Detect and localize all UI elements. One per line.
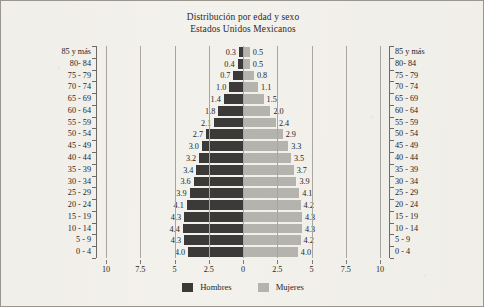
bar-hombres: [229, 82, 243, 92]
age-tick: [92, 140, 96, 141]
value-label-hombres: 3.0: [189, 142, 199, 151]
x-tick-mark: [380, 260, 381, 264]
age-label-right: 50 - 54: [389, 128, 463, 140]
x-tick-mark: [209, 260, 210, 264]
value-label-mujeres: 3.3: [291, 142, 301, 151]
x-tick-label: 7.5: [135, 265, 145, 274]
plot-area: 0.30.50.40.50.70.81.01.11.41.51.82.02.12…: [106, 46, 380, 258]
age-tick: [92, 211, 96, 212]
x-tick-mark: [277, 260, 278, 264]
age-label-right: 45 - 49: [389, 140, 463, 152]
bar-hombres: [224, 94, 243, 104]
age-tick: [92, 199, 96, 200]
bar-mujeres: [243, 59, 250, 69]
age-label-right: 20 - 24: [389, 199, 463, 211]
gridline: [380, 46, 381, 258]
x-tick-label: 5: [309, 265, 313, 274]
age-label-right: 55 - 59: [389, 117, 463, 129]
age-tick: [390, 70, 394, 71]
age-tick: [390, 93, 394, 94]
age-label-left: 45 - 49: [23, 140, 97, 152]
bar-mujeres: [243, 141, 288, 151]
value-label-hombres: 4.3: [171, 236, 181, 245]
value-label-mujeres: 4.3: [305, 224, 315, 233]
age-axis-left: 85 y más80- 8475 - 7970 - 7465 - 6960 - …: [23, 46, 97, 258]
bar-hombres: [190, 188, 243, 198]
x-tick-mark: [175, 260, 176, 264]
value-label-mujeres: 1.5: [267, 94, 277, 103]
value-label-mujeres: 2.0: [273, 106, 283, 115]
value-label-hombres: 0.7: [220, 71, 230, 80]
age-label-left: 15 - 19: [23, 211, 97, 223]
gridline: [209, 46, 210, 258]
value-label-hombres: 3.6: [180, 177, 190, 186]
legend-item: Hombres: [182, 282, 232, 292]
bar-hombres: [194, 177, 243, 187]
age-tick: [390, 164, 394, 165]
gridline: [277, 46, 278, 258]
bar-mujeres: [243, 165, 294, 175]
value-label-mujeres: 2.4: [279, 118, 289, 127]
bar-hombres: [214, 118, 243, 128]
value-label-hombres: 3.4: [183, 165, 193, 174]
bar-mujeres: [243, 82, 258, 92]
value-label-mujeres: 3.9: [299, 177, 309, 186]
x-tick-label: 5: [172, 265, 176, 274]
age-tick: [390, 223, 394, 224]
age-tick: [92, 187, 96, 188]
value-label-mujeres: 3.5: [294, 153, 304, 162]
value-label-hombres: 1.0: [216, 83, 226, 92]
legend-label: Hombres: [200, 282, 232, 292]
chart-subtitle: Estados Unidos Mexicanos: [1, 23, 484, 35]
bar-hombres: [184, 235, 243, 245]
age-label-right: 70 - 74: [389, 81, 463, 93]
bar-mujeres: [243, 106, 270, 116]
age-label-right: 35 - 39: [389, 164, 463, 176]
age-tick: [390, 81, 394, 82]
x-tick-mark: [312, 260, 313, 264]
age-tick: [92, 70, 96, 71]
value-label-mujeres: 0.5: [253, 47, 263, 56]
age-label-left: 35 - 39: [23, 164, 97, 176]
bar-hombres: [184, 212, 243, 222]
bar-hombres: [188, 247, 243, 257]
bar-mujeres: [243, 177, 296, 187]
bar-mujeres: [243, 200, 301, 210]
value-label-mujeres: 0.5: [253, 59, 263, 68]
age-label-left: 0 - 4: [23, 246, 97, 258]
bar-mujeres: [243, 235, 301, 245]
bar-hombres: [183, 224, 243, 234]
age-label-left: 65 - 69: [23, 93, 97, 105]
x-tick-mark: [140, 260, 141, 264]
age-tick: [390, 152, 394, 153]
bar-mujeres: [243, 188, 299, 198]
value-label-hombres: 1.8: [205, 106, 215, 115]
bar-mujeres: [243, 47, 250, 57]
age-tick: [390, 258, 394, 259]
age-tick: [92, 117, 96, 118]
age-tick: [92, 152, 96, 153]
age-tick: [92, 58, 96, 59]
age-tick: [92, 46, 96, 47]
age-label-left: 60 - 64: [23, 105, 97, 117]
age-tick: [92, 93, 96, 94]
age-tick: [390, 199, 394, 200]
value-label-hombres: 2.7: [193, 130, 203, 139]
x-tick-mark: [106, 260, 107, 264]
legend-item: Mujeres: [258, 282, 304, 292]
bar-hombres: [199, 153, 243, 163]
value-label-mujeres: 4.0: [301, 248, 311, 257]
value-label-mujeres: 2.9: [286, 130, 296, 139]
age-label-right: 85 y más: [389, 46, 463, 58]
age-label-right: 65 - 69: [389, 93, 463, 105]
legend-label: Mujeres: [276, 282, 304, 292]
bar-hombres: [187, 200, 243, 210]
age-tick: [390, 58, 394, 59]
age-tick: [390, 140, 394, 141]
age-tick: [92, 81, 96, 82]
gridline: [346, 46, 347, 258]
gridline: [140, 46, 141, 258]
age-tick: [390, 187, 394, 188]
bar-mujeres: [243, 71, 254, 81]
value-label-mujeres: 1.1: [261, 83, 271, 92]
